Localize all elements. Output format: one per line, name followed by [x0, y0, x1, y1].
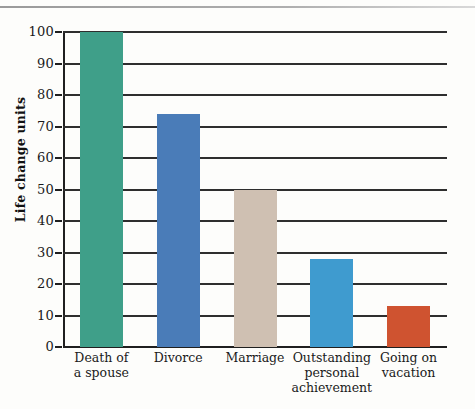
y-tick-label-20: 20 [37, 277, 54, 290]
y-tick-label-70: 70 [37, 120, 54, 133]
y-tick-mark-90 [55, 63, 62, 65]
bar [310, 259, 353, 347]
y-tick-label-60: 60 [37, 151, 54, 164]
y-tick-mark-50 [55, 189, 62, 191]
y-tick-mark-30 [55, 252, 62, 254]
plot-area [63, 32, 447, 347]
bar [234, 190, 277, 348]
y-tick-mark-10 [55, 315, 62, 317]
y-tick-label-90: 90 [37, 57, 54, 70]
y-tick-label-40: 40 [37, 214, 54, 227]
bar [80, 32, 123, 347]
x-axis-tick-labels: Death ofa spouseDivorceMarriageOutstandi… [63, 350, 453, 408]
y-tick-mark-60 [55, 157, 62, 159]
chart-page: Life change units 0102030405060708090100… [0, 0, 475, 409]
y-tick-mark-20 [55, 283, 62, 285]
y-tick-label-50: 50 [37, 183, 54, 196]
y-tick-label-30: 30 [37, 246, 54, 259]
x-axis-category-label-line: Going on [359, 350, 459, 365]
x-axis-category-label-line: achievement [282, 380, 382, 395]
y-tick-mark-0 [55, 346, 62, 348]
y-tick-mark-80 [55, 94, 62, 96]
page-top-rule [0, 6, 475, 8]
y-tick-label-10: 10 [37, 309, 54, 322]
y-axis-tick-labels: 0102030405060708090100 [0, 32, 54, 348]
bar [387, 306, 430, 347]
x-axis-category-label-line: vacation [359, 365, 459, 380]
y-tick-mark-70 [55, 126, 62, 128]
y-tick-label-80: 80 [37, 88, 54, 101]
x-axis-category-label: Going onvacation [359, 350, 459, 380]
y-tick-mark-40 [55, 220, 62, 222]
y-tick-label-100: 100 [29, 25, 54, 38]
x-axis-category-label-line: a spouse [51, 365, 151, 380]
bar [157, 114, 200, 347]
y-tick-mark-100 [55, 31, 62, 33]
